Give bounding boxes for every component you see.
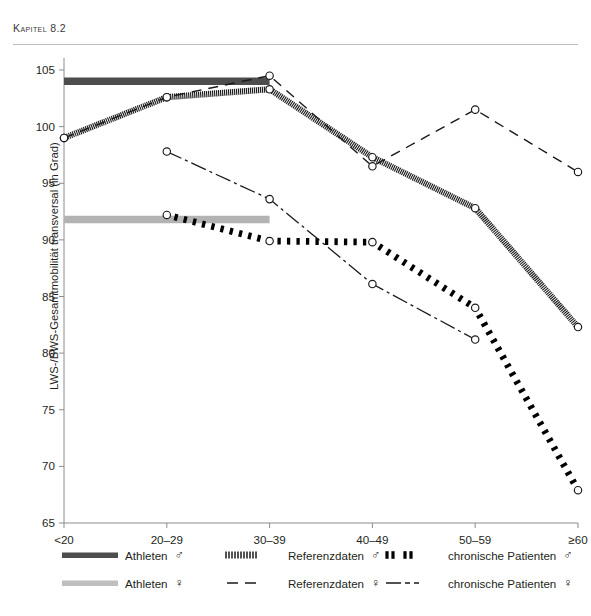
series-segment-tick [491,339,497,342]
series-segment-tick [221,226,223,233]
data-point-marker [574,168,581,175]
data-point-marker [266,86,273,93]
data-point-marker [266,195,273,202]
legend-symbol-dash-dot [385,576,441,590]
legend-label: Athleten [125,549,168,562]
data-point-marker [574,323,581,330]
series-segment-tick [533,414,539,417]
series-segment-tick [443,285,447,291]
series-segment-tick [524,397,530,400]
series-segment-tick [459,296,463,302]
y-tick-label: 80 [42,346,55,359]
data-point-marker [163,93,170,100]
x-tick-label: 30–39 [253,533,285,546]
series-segment-tick [510,372,516,375]
female-symbol: ♀ [175,577,184,590]
legend-label: chronische Patienten [448,549,556,562]
series-segment-tick [482,323,488,326]
x-tick-label: 40–49 [356,533,388,546]
series-segment-tick [203,221,205,228]
legend-item-athleten-male: Athleten ♂ [62,548,184,562]
data-point-marker [472,336,479,343]
female-symbol: ♀ [563,577,572,590]
data-point-marker [369,280,376,287]
series-4 [163,211,582,494]
legend-item-chronische-patienten-female: chronische Patienten ♀ [385,576,573,590]
y-tick-label: 85 [42,290,55,303]
legend-label: Referenzdaten [288,577,364,590]
series-dash-dot-line [167,152,475,340]
series-segment-tick [514,381,520,384]
data-point-marker [472,204,479,211]
series-segment-tick [212,223,214,230]
data-point-marker [369,238,376,245]
series-segment-tick [528,405,534,408]
legend-symbol-dashed [225,576,281,590]
series-segment-tick [387,250,391,256]
y-tick-label: 70 [42,459,55,472]
legend-item-referenzdaten-female: Referenzdaten ♀ [225,576,380,590]
series-segment-tick [570,480,576,483]
data-point-marker [472,304,479,311]
legend-row-female: Athleten ♀ Referenzdaten ♀ chronische Pa… [0,576,591,604]
series-segment-tick [566,472,572,475]
x-tick-label: ≥60 [568,533,587,546]
legend-label: Athleten [125,577,168,590]
chart-plot-area: 65707580859095100105<2020–2930–3940–4950… [0,50,591,550]
data-point-marker [369,154,376,161]
series-segment-tick [411,265,415,271]
series-segment-tick [427,275,431,281]
female-symbol: ♀ [371,577,380,590]
series-segment-tick [230,228,232,235]
y-tick-label: 100 [36,120,55,133]
y-tick-label: 95 [42,176,55,189]
legend-item-athleten-female: Athleten ♀ [62,576,184,590]
data-point-marker [369,163,376,170]
series-segment-tick [249,233,251,240]
y-tick-label: 105 [36,63,55,76]
y-tick-label: 90 [42,233,55,246]
data-point-marker [266,72,273,79]
y-tick-label: 65 [42,516,55,529]
series-segment-tick [496,348,502,351]
legend-symbol-thick-bar-dark [62,548,118,562]
male-symbol: ♂ [371,549,380,562]
running-head-rule [13,44,578,45]
series-segment-tick [477,314,483,317]
series-segment-tick [552,447,558,450]
legend-item-chronische-patienten-male: chronische Patienten ♂ [385,548,573,562]
data-point-marker [163,211,170,218]
series-segment-tick [419,270,423,276]
series-segment-tick [542,430,548,433]
legend-symbol-thick-dotted [385,548,441,562]
series-segment-tick [505,364,511,367]
chart-legend: Athleten ♂ Referenzdaten [0,548,591,604]
legend-label: chronische Patienten [448,577,556,590]
male-symbol: ♂ [175,549,184,562]
legend-item-referenzdaten-male: Referenzdaten ♂ [225,548,380,562]
series-segment-tick [175,214,177,221]
series-segment-tick [519,389,525,392]
data-point-marker [574,486,581,493]
series-segment-tick [435,280,439,286]
series-segment-tick [240,230,242,237]
x-tick-label: <20 [54,533,74,546]
series-segment-tick [379,244,383,250]
series-5 [163,148,479,343]
x-tick-label: 20–29 [151,533,183,546]
series-segment-tick [184,216,186,223]
series-segment-tick [194,219,196,226]
y-tick-label: 75 [42,403,55,416]
series-segment-tick [403,260,407,266]
legend-row-male: Athleten ♂ Referenzdaten [0,548,591,576]
legend-symbol-hatched [225,548,281,562]
series-segment-tick [395,255,399,261]
data-point-marker [266,237,273,244]
page-root: Kapitel 8.2 LWS-/BWS-Gesamtmobilität tra… [0,0,591,616]
chart-figure: LWS-/BWS-Gesamtmobilität transversal (in… [0,50,591,616]
series-2 [60,86,581,331]
series-segment-tick [561,463,567,466]
legend-symbol-thick-bar-light [62,576,118,590]
series-segment-tick [547,439,553,442]
data-point-marker [163,148,170,155]
